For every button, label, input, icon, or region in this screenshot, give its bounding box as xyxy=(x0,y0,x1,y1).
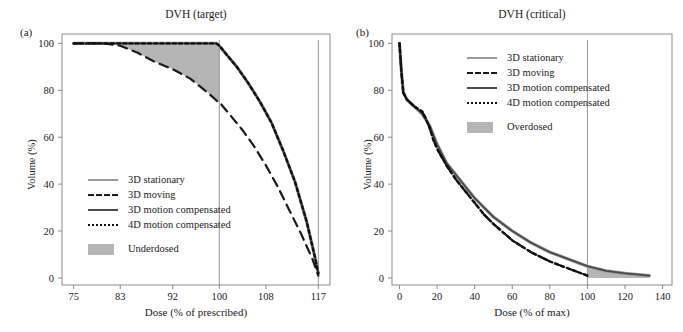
x-tick-108: 108 xyxy=(258,291,274,302)
panel-b-xlabel: Dose (% of max) xyxy=(392,306,672,318)
x-tick-92: 92 xyxy=(167,291,178,302)
y-tick-20: 20 xyxy=(30,226,54,237)
x-tick-100: 100 xyxy=(580,291,596,302)
legend-label: Overdosed xyxy=(507,119,553,134)
legend-swatch-area xyxy=(88,244,114,255)
legend-swatch-line xyxy=(88,179,118,181)
x-tick-117: 117 xyxy=(311,291,326,302)
y-tick-100: 100 xyxy=(360,38,384,49)
legend-label: 3D stationary xyxy=(128,172,185,187)
y-tick-60: 60 xyxy=(30,132,54,143)
legend-label: 3D stationary xyxy=(507,50,564,65)
x-tick-120: 120 xyxy=(617,291,633,302)
legend-swatch-line xyxy=(467,87,497,89)
x-tick-40: 40 xyxy=(469,291,480,302)
x-tick-83: 83 xyxy=(115,291,126,302)
x-tick-20: 20 xyxy=(432,291,443,302)
y-tick-80: 80 xyxy=(30,85,54,96)
x-tick-0: 0 xyxy=(397,291,402,302)
panel-b: (b) DVH (critical) Volume (%) Dose (% of… xyxy=(342,0,683,332)
legend-swatch-line xyxy=(467,102,497,104)
legend-swatch-area xyxy=(467,122,493,133)
x-tick-140: 140 xyxy=(655,291,671,302)
y-tick-0: 0 xyxy=(30,272,54,283)
y-tick-60: 60 xyxy=(360,132,384,143)
dvh-figure: (a) DVH (target) Volume (%) Dose (% of p… xyxy=(0,0,683,332)
legend-swatch-line xyxy=(88,224,118,226)
y-tick-40: 40 xyxy=(360,179,384,190)
legend-label: 3D motion compensated xyxy=(128,202,231,217)
x-tick-80: 80 xyxy=(545,291,556,302)
y-tick-100: 100 xyxy=(30,38,54,49)
legend-label: Underdosed xyxy=(128,241,179,256)
legend-swatch-line xyxy=(88,209,118,211)
y-tick-0: 0 xyxy=(360,272,384,283)
panel-a: (a) DVH (target) Volume (%) Dose (% of p… xyxy=(0,0,342,332)
y-tick-80: 80 xyxy=(360,85,384,96)
legend-label: 3D moving xyxy=(507,65,555,80)
y-tick-20: 20 xyxy=(360,226,384,237)
legend-label: 4D motion compensated xyxy=(128,217,231,232)
legend-swatch-line xyxy=(467,72,497,74)
legend-label: 3D moving xyxy=(128,187,176,202)
y-tick-40: 40 xyxy=(30,179,54,190)
x-tick-60: 60 xyxy=(507,291,518,302)
legend-label: 4D motion compensated xyxy=(507,95,610,110)
x-tick-100: 100 xyxy=(211,291,227,302)
x-tick-75: 75 xyxy=(68,291,79,302)
legend-swatch-line xyxy=(467,57,497,59)
legend-swatch-line xyxy=(88,194,118,196)
legend-label: 3D motion compensated xyxy=(507,80,610,95)
panel-a-xlabel: Dose (% of prescribed) xyxy=(62,306,330,318)
